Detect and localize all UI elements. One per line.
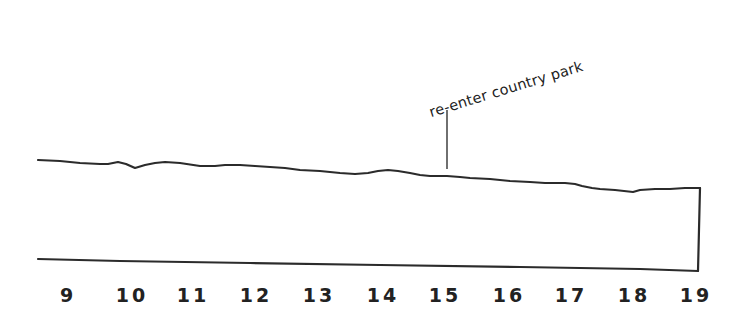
x-tick-9: 9 bbox=[60, 284, 76, 306]
x-tick-19: 19 bbox=[680, 284, 712, 306]
profile-right-edge bbox=[698, 188, 700, 271]
x-tick-11: 11 bbox=[177, 284, 209, 306]
x-tick-13: 13 bbox=[303, 284, 335, 306]
elevation-profile-figure: re-enter country park 9 10 11 12 13 14 1… bbox=[0, 0, 744, 321]
x-tick-15: 15 bbox=[429, 284, 461, 306]
x-tick-18: 18 bbox=[618, 284, 650, 306]
x-tick-14: 14 bbox=[367, 284, 399, 306]
x-tick-17: 17 bbox=[555, 284, 587, 306]
profile-baseline bbox=[38, 259, 698, 271]
profile-drawing bbox=[0, 0, 744, 321]
x-tick-10: 10 bbox=[116, 284, 148, 306]
terrain-profile-line bbox=[38, 160, 700, 192]
x-tick-16: 16 bbox=[493, 284, 525, 306]
x-tick-12: 12 bbox=[240, 284, 272, 306]
